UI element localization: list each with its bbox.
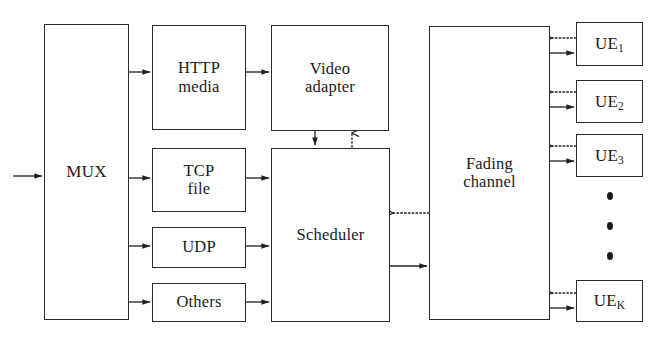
node-video-adapter[interactable]: Video adapter <box>271 25 389 131</box>
node-ue-2[interactable]: UE2 <box>576 80 643 123</box>
node-tcp-file[interactable]: TCP file <box>152 148 246 212</box>
node-ue-1-subscript: 1 <box>618 42 624 54</box>
node-ue-1[interactable]: UE1 <box>576 22 643 66</box>
node-ue-3-prefix: UE <box>595 146 618 165</box>
node-http-media-label: HTTP media <box>178 59 220 96</box>
node-scheduler-label: Scheduler <box>297 226 365 244</box>
ellipsis-dot <box>607 222 613 230</box>
node-ue-k-prefix: UE <box>594 291 617 310</box>
vertical-ellipsis <box>605 192 615 260</box>
node-ue-3[interactable]: UE3 <box>576 134 643 177</box>
node-mux-label: MUX <box>66 162 106 181</box>
block-diagram-canvas: MUX HTTP media TCP file UDP Others Video… <box>0 0 659 345</box>
node-ue-k[interactable]: UEK <box>576 280 643 322</box>
node-udp[interactable]: UDP <box>152 227 246 268</box>
node-ue-k-subscript: K <box>617 299 626 311</box>
node-http-media[interactable]: HTTP media <box>152 25 246 130</box>
ellipsis-dot <box>607 192 613 200</box>
node-udp-label: UDP <box>182 238 216 256</box>
node-ue-1-prefix: UE <box>595 34 618 53</box>
node-others[interactable]: Others <box>152 283 246 322</box>
ellipsis-dot <box>607 252 613 260</box>
node-ue-k-label: UEK <box>594 291 626 310</box>
node-ue-1-label: UE1 <box>595 34 624 53</box>
node-scheduler[interactable]: Scheduler <box>271 148 390 322</box>
node-ue-3-label: UE3 <box>595 146 624 165</box>
node-mux[interactable]: MUX <box>44 24 129 320</box>
node-ue-2-subscript: 2 <box>618 100 624 112</box>
node-others-label: Others <box>176 293 221 311</box>
node-tcp-file-label: TCP file <box>184 162 215 199</box>
node-ue-2-prefix: UE <box>595 92 618 111</box>
node-ue-3-subscript: 3 <box>618 154 624 166</box>
node-video-adapter-label: Video adapter <box>305 60 355 97</box>
node-ue-2-label: UE2 <box>595 92 624 111</box>
node-fading-channel-label: Fading channel <box>463 155 516 192</box>
node-fading-channel[interactable]: Fading channel <box>429 26 550 320</box>
